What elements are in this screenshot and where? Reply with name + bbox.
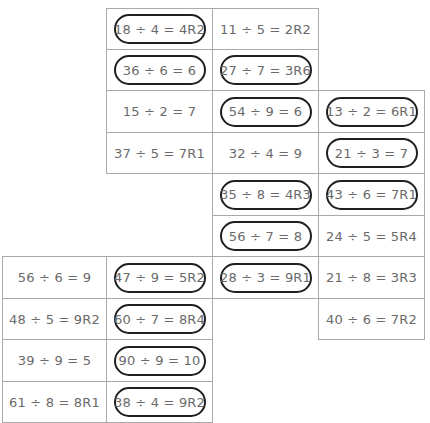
equation-text: 37 ÷ 5 = 7R1 [114,146,205,161]
equation-text: 27 ÷ 7 = 3R6 [220,63,311,78]
equation-cell-circled[interactable]: 56 ÷ 7 = 8 [212,215,319,257]
equation-text: 48 ÷ 5 = 9R2 [9,312,100,327]
equation-cell[interactable]: 32 ÷ 4 = 9 [212,132,319,174]
equation-text: 35 ÷ 8 = 4R3 [220,187,311,202]
equation-cell-circled[interactable]: 21 ÷ 3 = 7 [318,132,425,174]
equation-text: 13 ÷ 2 = 6R1 [326,104,417,119]
answer-circle: 27 ÷ 7 = 3R6 [220,55,312,85]
equation-cell[interactable]: 39 ÷ 9 = 5 [2,339,107,382]
equation-cell[interactable]: 56 ÷ 6 = 9 [2,256,107,299]
equation-text: 54 ÷ 9 = 6 [229,104,302,119]
equation-cell[interactable]: 40 ÷ 6 = 7R2 [318,298,425,340]
equation-text: 39 ÷ 9 = 5 [18,353,91,368]
equation-cell[interactable]: 61 ÷ 8 = 8R1 [2,381,107,423]
equation-cell-circled[interactable]: 90 ÷ 9 = 10 [106,339,213,382]
equation-cell[interactable]: 48 ÷ 5 = 9R2 [2,298,107,340]
equation-cell-circled[interactable]: 60 ÷ 7 = 8R4 [106,298,213,340]
equation-cell[interactable]: 24 ÷ 5 = 5R4 [318,215,425,257]
equation-cell-circled[interactable]: 36 ÷ 6 = 6 [106,49,213,91]
equation-text: 24 ÷ 5 = 5R4 [326,229,417,244]
equation-cell-circled[interactable]: 28 ÷ 3 = 9R1 [212,256,319,299]
equation-cell[interactable]: 37 ÷ 5 = 7R1 [106,132,213,174]
answer-circle: 38 ÷ 4 = 9R2 [114,387,206,417]
equation-cell[interactable]: 15 ÷ 2 = 7 [106,90,213,133]
equation-cell-circled[interactable]: 27 ÷ 7 = 3R6 [212,49,319,91]
equation-text: 15 ÷ 2 = 7 [123,104,196,119]
equation-cell[interactable]: 21 ÷ 8 = 3R3 [318,256,425,299]
equation-text: 47 ÷ 9 = 5R2 [114,270,205,285]
equation-text: 90 ÷ 9 = 10 [119,353,201,368]
answer-circle: 21 ÷ 3 = 7 [326,138,418,168]
answer-circle: 43 ÷ 6 = 7R1 [326,180,418,210]
answer-circle: 54 ÷ 9 = 6 [220,97,312,127]
equation-text: 21 ÷ 8 = 3R3 [326,270,417,285]
answer-circle: 60 ÷ 7 = 8R4 [114,304,206,334]
answer-circle: 56 ÷ 7 = 8 [220,221,312,251]
equation-text: 38 ÷ 4 = 9R2 [114,395,205,410]
equation-cell[interactable]: 11 ÷ 5 = 2R2 [212,8,319,50]
equation-cell-circled[interactable]: 38 ÷ 4 = 9R2 [106,381,213,423]
equation-cell-circled[interactable]: 54 ÷ 9 = 6 [212,90,319,133]
equation-cell-circled[interactable]: 18 ÷ 4 = 4R2 [106,8,213,50]
answer-circle: 47 ÷ 9 = 5R2 [114,263,206,293]
answer-circle: 28 ÷ 3 = 9R1 [220,263,312,293]
equation-cell-circled[interactable]: 35 ÷ 8 = 4R3 [212,173,319,216]
answer-circle: 36 ÷ 6 = 6 [114,55,206,85]
equation-text: 32 ÷ 4 = 9 [229,146,302,161]
equation-cell-circled[interactable]: 43 ÷ 6 = 7R1 [318,173,425,216]
equation-text: 60 ÷ 7 = 8R4 [114,312,205,327]
equation-text: 36 ÷ 6 = 6 [123,63,196,78]
equation-cell-circled[interactable]: 13 ÷ 2 = 6R1 [318,90,425,133]
equation-text: 21 ÷ 3 = 7 [335,146,408,161]
answer-circle: 13 ÷ 2 = 6R1 [326,97,418,127]
answer-circle: 35 ÷ 8 = 4R3 [220,180,312,210]
answer-circle: 18 ÷ 4 = 4R2 [114,14,206,44]
equation-cell-circled[interactable]: 47 ÷ 9 = 5R2 [106,256,213,299]
equation-text: 11 ÷ 5 = 2R2 [220,22,311,37]
equation-text: 18 ÷ 4 = 4R2 [114,22,205,37]
equation-text: 43 ÷ 6 = 7R1 [326,187,417,202]
equation-text: 61 ÷ 8 = 8R1 [9,395,100,410]
equation-text: 28 ÷ 3 = 9R1 [220,270,311,285]
answer-circle: 90 ÷ 9 = 10 [114,346,206,376]
equation-text: 56 ÷ 7 = 8 [229,229,302,244]
equation-text: 40 ÷ 6 = 7R2 [326,312,417,327]
equation-text: 56 ÷ 6 = 9 [18,270,91,285]
